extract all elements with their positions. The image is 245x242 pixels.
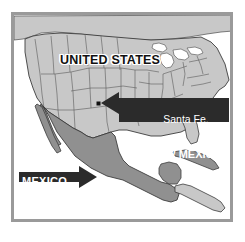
locator-map-figure: UNITED STATES Santa Fe, NEW MEXICO MEXIC… bbox=[0, 0, 245, 242]
map-canvas bbox=[11, 12, 233, 222]
santa-fe-marker bbox=[97, 102, 101, 106]
map-frame: UNITED STATES bbox=[11, 12, 233, 222]
